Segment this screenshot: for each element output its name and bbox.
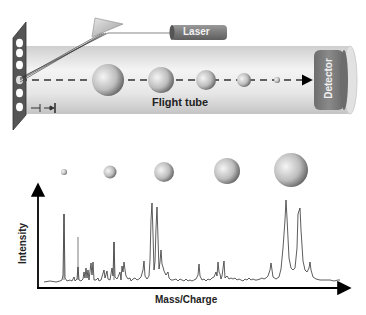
ion-sphere [92,64,124,96]
detector-label: Detector [323,49,334,109]
flight-tube-label: Flight tube [152,96,208,108]
diagram-svg [0,0,366,315]
ion-sphere [274,77,280,83]
y-axis-label: Intensity [17,214,28,274]
ion-sphere [154,162,174,182]
ion-sphere [104,166,117,179]
ion-sphere [274,153,308,187]
ion-sphere [214,158,240,184]
spectrum-ion-markers [61,153,308,187]
ion-sphere [61,169,67,175]
x-axis-label: Mass/Charge [155,294,217,305]
laser-label: Laser [183,26,210,37]
ion-sphere [148,67,174,93]
ion-sphere [237,73,251,87]
tof-ms-diagram: Laser Flight tube Detector Intensity Mas… [0,0,366,315]
prism-mirror-icon [92,18,123,37]
ion-sphere [196,70,216,90]
spectrum-spikes [64,214,114,280]
mass-spectrum-trace [44,200,340,282]
